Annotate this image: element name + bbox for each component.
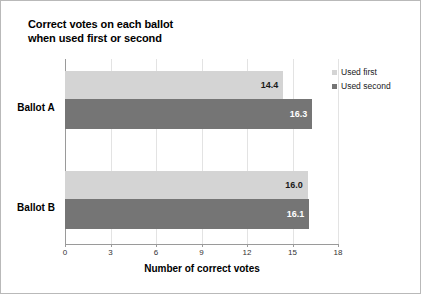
bar-value-label: 16.3 xyxy=(290,109,308,119)
legend-item-used-second[interactable]: Used second xyxy=(332,79,391,93)
legend-label-used-second: Used second xyxy=(341,81,391,91)
chart-title-line-1: Correct votes on each ballot xyxy=(28,17,288,31)
legend-label-used-first: Used first xyxy=(341,67,377,77)
legend-item-used-first[interactable]: Used first xyxy=(332,65,391,79)
x-tick-label-18: 18 xyxy=(328,248,348,257)
x-tick-mark-18 xyxy=(338,244,339,247)
x-tick-mark-6 xyxy=(156,244,157,247)
bar-ballot-a-used-second[interactable]: 16.3 xyxy=(65,99,312,129)
legend-swatch-used-second xyxy=(332,84,337,89)
bar-ballot-a-used-first[interactable]: 14.4 xyxy=(65,71,283,99)
x-tick-label-3: 3 xyxy=(101,248,121,257)
bar-ballot-b-used-first[interactable]: 16.0 xyxy=(65,171,308,199)
chart-title-line-2: when used first or second xyxy=(28,31,288,45)
x-tick-label-0: 0 xyxy=(55,248,75,257)
bar-value-label: 16.1 xyxy=(287,209,305,219)
bar-ballot-b-used-second[interactable]: 16.1 xyxy=(65,199,309,229)
x-tick-label-12: 12 xyxy=(237,248,257,257)
bar-value-label: 14.4 xyxy=(261,80,279,90)
category-label-ballot-b: Ballot B xyxy=(9,202,63,213)
x-tick-mark-0 xyxy=(65,244,66,247)
x-tick-label-15: 15 xyxy=(283,248,303,257)
x-tick-mark-15 xyxy=(293,244,294,247)
x-tick-mark-12 xyxy=(247,244,248,247)
x-tick-mark-9 xyxy=(202,244,203,247)
legend-swatch-used-first xyxy=(332,70,337,75)
x-tick-mark-3 xyxy=(111,244,112,247)
chart-legend: Used first Used second xyxy=(332,65,391,93)
chart-container: Correct votes on each ballot when used f… xyxy=(0,0,421,294)
bar-value-label: 16.0 xyxy=(285,180,303,190)
x-axis-title: Number of correct votes xyxy=(65,263,339,274)
x-tick-label-6: 6 xyxy=(146,248,166,257)
chart-title: Correct votes on each ballot when used f… xyxy=(28,17,288,45)
x-tick-label-9: 9 xyxy=(192,248,212,257)
category-label-ballot-a: Ballot A xyxy=(9,102,63,113)
